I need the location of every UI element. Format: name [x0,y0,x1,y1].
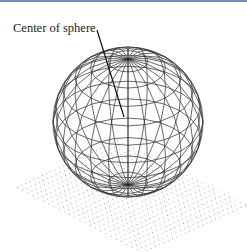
center-of-sphere-label: Center of sphere [13,21,96,36]
sphere-diagram [0,0,247,252]
ground-dot-grid [17,140,246,252]
wireframe-sphere [53,47,203,197]
